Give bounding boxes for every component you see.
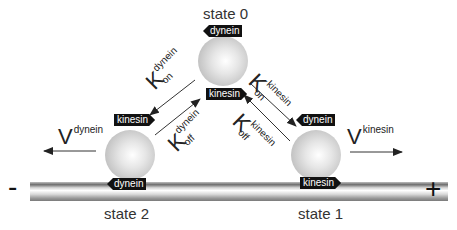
state-0-dynein-tag: dynein [203, 25, 242, 37]
velocity-dynein: Vdynein [58, 124, 103, 150]
state-2-dynein-tag: dynein [107, 178, 146, 190]
velocity-kinesin: Vkinesin [347, 124, 394, 150]
state-2-cargo [105, 130, 155, 180]
state-1-kinesin-tag: kinesin [300, 177, 341, 189]
state-2-label: state 2 [104, 205, 149, 222]
state-1-label: state 1 [298, 205, 343, 222]
state-0-kinesin-tag: kinesin [206, 88, 247, 100]
state-0-cargo [198, 36, 248, 86]
state-1-cargo [291, 130, 341, 180]
minus-end-label: - [8, 171, 17, 203]
state-2-kinesin-tag: kinesin [114, 114, 155, 126]
plus-end-label: + [425, 173, 441, 205]
state-1-dynein-tag: dynein [296, 114, 335, 126]
microtubule-track [30, 182, 448, 201]
state-0-label: state 0 [203, 5, 248, 22]
